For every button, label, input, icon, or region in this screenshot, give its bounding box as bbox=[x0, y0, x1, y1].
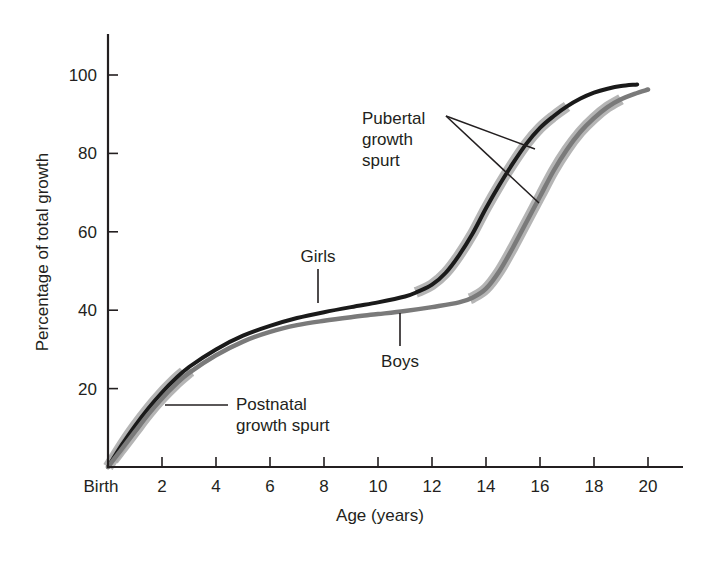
x-tick-label: 4 bbox=[211, 477, 220, 496]
postnatal-label-line2: growth spurt bbox=[236, 416, 330, 435]
y-tick-label: 60 bbox=[78, 223, 97, 242]
axes bbox=[107, 34, 683, 467]
x-tick-label: 6 bbox=[265, 477, 274, 496]
pubertal-label-line1: Pubertal bbox=[362, 109, 425, 128]
x-tick-label: 16 bbox=[531, 477, 550, 496]
x-tick-label: 14 bbox=[477, 477, 496, 496]
pubertal-label-line3: spurt bbox=[362, 151, 400, 170]
y-tick-label: 80 bbox=[78, 144, 97, 163]
y-tick-label: 20 bbox=[78, 380, 97, 399]
postnatal-label-line1: Postnatal bbox=[236, 395, 307, 414]
y-axis-ticks: 20406080100 bbox=[69, 66, 118, 399]
pubertal-leader-girls bbox=[446, 116, 535, 149]
boys-label: Boys bbox=[381, 352, 419, 371]
girls-label: Girls bbox=[301, 247, 336, 266]
y-tick-label: 40 bbox=[78, 301, 97, 320]
x-tick-label: 18 bbox=[585, 477, 604, 496]
x-tick-label: 2 bbox=[157, 477, 166, 496]
x-tick-label: Birth bbox=[84, 477, 119, 496]
x-axis-title: Age (years) bbox=[336, 506, 424, 525]
x-tick-label: 20 bbox=[639, 477, 658, 496]
y-axis-title: Percentage of total growth bbox=[33, 153, 52, 351]
x-tick-label: 12 bbox=[423, 477, 442, 496]
growth-chart: Birth2468101214161820 20406080100 Age (y… bbox=[0, 0, 702, 561]
x-tick-label: 8 bbox=[319, 477, 328, 496]
x-tick-label: 10 bbox=[369, 477, 388, 496]
pubertal-label-line2: growth bbox=[362, 130, 413, 149]
y-tick-label: 100 bbox=[69, 66, 97, 85]
x-axis-ticks: Birth2468101214161820 bbox=[84, 457, 658, 496]
